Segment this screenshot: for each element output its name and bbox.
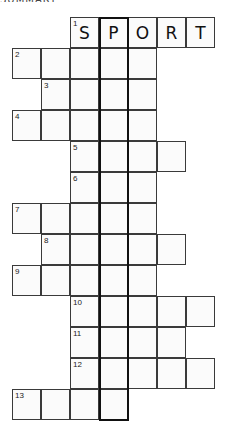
clue-number: 12: [73, 360, 82, 369]
crossword-cell[interactable]: 3: [41, 79, 70, 110]
crossword-cell[interactable]: [128, 110, 157, 141]
crossword-cell[interactable]: [157, 141, 186, 172]
crossword-cell[interactable]: 8: [41, 234, 70, 265]
crossword-cell[interactable]: [41, 110, 70, 141]
crossword-cell[interactable]: [70, 234, 99, 265]
clue-number: 5: [73, 143, 77, 152]
cell-letter: P: [100, 23, 127, 43]
crossword-cell[interactable]: R: [157, 17, 186, 48]
cell-letter: T: [187, 23, 214, 43]
crossword-grid: 1SPORT2345678910111213: [0, 0, 231, 434]
crossword-cell[interactable]: 2: [12, 48, 41, 79]
cell-letter: R: [158, 23, 185, 43]
crossword-cell[interactable]: 13: [12, 389, 41, 420]
crossword-cell[interactable]: 1S: [70, 17, 99, 48]
crossword-cell[interactable]: [99, 358, 128, 389]
crossword-cell[interactable]: [70, 79, 99, 110]
crossword-cell[interactable]: [99, 203, 128, 234]
crossword-cell[interactable]: 6: [70, 172, 99, 203]
clue-number: 11: [73, 329, 81, 338]
clue-number: 6: [73, 174, 77, 183]
crossword-cell[interactable]: P: [99, 17, 128, 48]
clue-number: 13: [15, 391, 24, 400]
crossword-cell[interactable]: [128, 358, 157, 389]
crossword-cell[interactable]: O: [128, 17, 157, 48]
crossword-cell[interactable]: 12: [70, 358, 99, 389]
crossword-cell[interactable]: [99, 265, 128, 296]
crossword-cell[interactable]: [99, 327, 128, 358]
crossword-cell[interactable]: T: [186, 17, 215, 48]
crossword-cell[interactable]: [128, 79, 157, 110]
crossword-cell[interactable]: 9: [12, 265, 41, 296]
clue-number: 4: [15, 112, 19, 121]
cell-letter: S: [71, 23, 98, 43]
clue-number: 10: [73, 298, 82, 307]
clue-number: 9: [15, 267, 19, 276]
cell-letter: O: [129, 23, 156, 43]
crossword-cell[interactable]: [128, 172, 157, 203]
crossword-cell[interactable]: [128, 203, 157, 234]
crossword-cell[interactable]: [157, 234, 186, 265]
crossword-cell[interactable]: [99, 141, 128, 172]
clue-number: 2: [15, 50, 19, 59]
crossword-cell[interactable]: [70, 48, 99, 79]
crossword-cell[interactable]: [70, 203, 99, 234]
crossword-cell[interactable]: [70, 265, 99, 296]
crossword-cell[interactable]: [99, 172, 128, 203]
crossword-cell[interactable]: [99, 234, 128, 265]
crossword-cell[interactable]: [157, 327, 186, 358]
crossword-cell[interactable]: [70, 389, 99, 420]
crossword-cell[interactable]: 4: [12, 110, 41, 141]
crossword-cell[interactable]: [128, 234, 157, 265]
crossword-cell[interactable]: [128, 296, 157, 327]
crossword-cell[interactable]: [41, 48, 70, 79]
crossword-cell[interactable]: [99, 296, 128, 327]
crossword-cell[interactable]: [128, 265, 157, 296]
crossword-cell[interactable]: [41, 265, 70, 296]
crossword-cell[interactable]: [157, 358, 186, 389]
crossword-cell[interactable]: [128, 327, 157, 358]
clue-number: 3: [44, 81, 48, 90]
clue-number: 8: [44, 236, 48, 245]
crossword-cell[interactable]: [41, 203, 70, 234]
crossword-cell[interactable]: [157, 296, 186, 327]
crossword-cell[interactable]: [128, 48, 157, 79]
crossword-cell[interactable]: 7: [12, 203, 41, 234]
crossword-cell[interactable]: 10: [70, 296, 99, 327]
crossword-cell[interactable]: [99, 110, 128, 141]
crossword-cell[interactable]: [99, 79, 128, 110]
crossword-cell[interactable]: [186, 358, 215, 389]
crossword-cell[interactable]: [186, 296, 215, 327]
crossword-cell[interactable]: [99, 48, 128, 79]
crossword-cell[interactable]: 11: [70, 327, 99, 358]
crossword-cell[interactable]: [128, 141, 157, 172]
crossword-cell[interactable]: [70, 110, 99, 141]
crossword-cell[interactable]: [41, 389, 70, 420]
crossword-cell[interactable]: [99, 389, 128, 420]
clue-number: 7: [15, 205, 19, 214]
crossword-cell[interactable]: 5: [70, 141, 99, 172]
